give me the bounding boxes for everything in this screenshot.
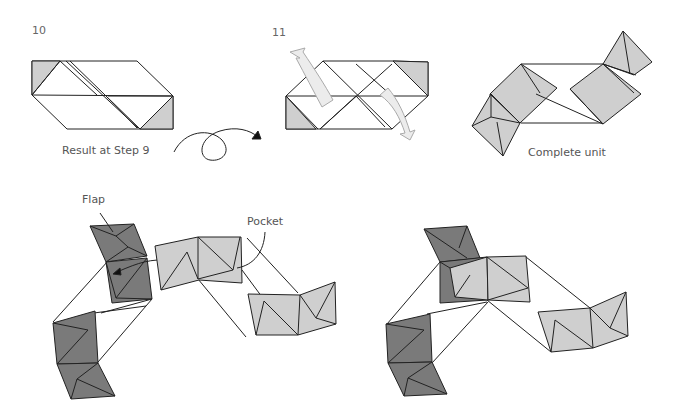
assembly-left [53,213,336,399]
step-10-folded-piece [32,61,173,129]
turn-over-arrow [174,129,261,160]
assembly-right [386,226,628,396]
complete-unit [472,31,652,156]
origami-diagram [0,0,680,415]
